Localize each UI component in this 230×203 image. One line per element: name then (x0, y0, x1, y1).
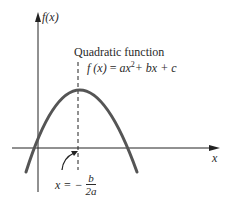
fraction-denominator: 2a (86, 185, 97, 197)
equation-equals: = (107, 61, 120, 75)
quadratic-diagram (0, 0, 230, 203)
vertex-annotation-prefix: x = − (55, 179, 83, 191)
diagram-title: Quadratic function (74, 46, 164, 58)
equation-lhs: f (x) (87, 61, 107, 75)
vertex-fraction: b 2a (86, 172, 97, 197)
vertex-annotation: x = − b 2a (55, 172, 97, 197)
y-axis-arrow-icon (35, 12, 41, 22)
x-axis-label: x (212, 152, 217, 164)
equation-label: f (x) = ax2+ bx + c (87, 61, 177, 74)
parabola-curve (26, 90, 137, 172)
equation-a-term: ax (119, 61, 130, 75)
y-axis-label: f(x) (42, 11, 59, 23)
vertex-pointer-arrow (62, 153, 74, 170)
fraction-numerator: b (86, 172, 96, 185)
equation-rest: + bx + c (135, 61, 177, 75)
